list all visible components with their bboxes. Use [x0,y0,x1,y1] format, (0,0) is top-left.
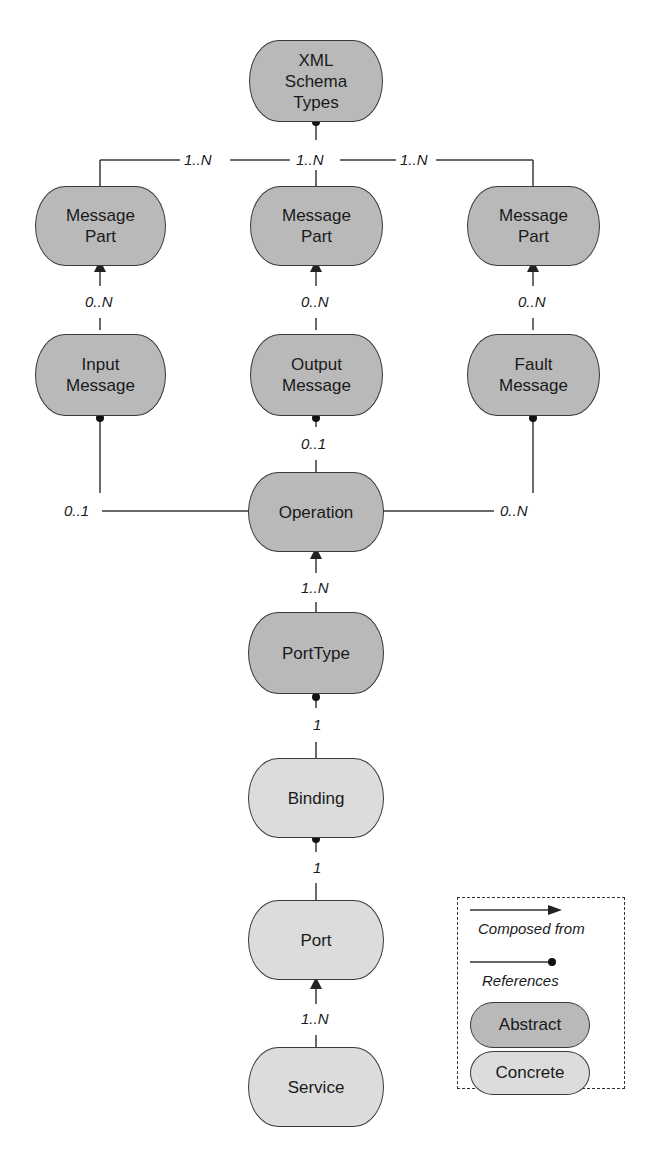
node-label: Input [66,354,135,375]
node-porttype: PortType [248,612,384,694]
legend-references: References [482,972,559,989]
node-label: Message [66,205,135,226]
node-label: Message [282,375,351,396]
legend-line-glyphs [458,898,623,978]
cardinality-label: 0..N [496,503,532,519]
cardinality-label: 0..N [297,294,333,310]
cardinality-label: 1..N [292,152,328,168]
legend-concrete-swatch: Concrete [470,1051,590,1095]
dot-icon [548,958,556,966]
node-label: Service [288,1077,345,1098]
cardinality-label: 0..1 [60,503,93,519]
cardinality-label: 0..1 [297,436,330,452]
cardinality-label: 1..N [297,580,333,596]
legend-abstract-label: Abstract [499,1015,561,1035]
node-message-part-fault: MessagePart [467,186,600,266]
node-label: PortType [282,643,350,664]
cardinality-label: 1 [309,717,325,733]
legend-composed-from: Composed from [478,920,585,937]
node-xml-schema-types: XMLSchemaTypes [249,40,383,122]
node-output-message: OutputMessage [250,334,383,416]
node-label: Types [285,92,347,113]
node-message-part-output: MessagePart [250,186,383,266]
node-message-part-input: MessagePart [35,186,166,266]
node-binding: Binding [248,758,384,838]
node-input-message: InputMessage [35,334,166,416]
legend-abstract-swatch: Abstract [470,1002,590,1048]
node-operation: Operation [248,472,384,552]
node-label: Output [282,354,351,375]
node-label: Fault [499,354,568,375]
cardinality-label: 1..N [297,1011,333,1027]
node-port: Port [248,900,384,980]
cardinality-label: 0..N [81,294,117,310]
legend-concrete-label: Concrete [496,1063,565,1083]
cardinality-label: 1..N [180,152,216,168]
cardinality-label: 1..N [396,152,432,168]
node-label: Part [282,226,351,247]
node-label: Message [499,205,568,226]
node-service: Service [248,1047,384,1127]
node-label: Message [499,375,568,396]
node-label: Message [282,205,351,226]
node-fault-message: FaultMessage [467,334,600,416]
node-label: Part [66,226,135,247]
node-label: Message [66,375,135,396]
node-label: XML [285,50,347,71]
cardinality-label: 0..N [514,294,550,310]
arrow-icon [548,905,562,915]
node-label: Part [499,226,568,247]
legend: Composed from References Abstract Concre… [457,897,625,1089]
node-label: Binding [288,788,345,809]
node-label: Schema [285,71,347,92]
cardinality-label: 1 [309,860,325,876]
node-label: Operation [279,502,354,523]
node-label: Port [300,930,331,951]
